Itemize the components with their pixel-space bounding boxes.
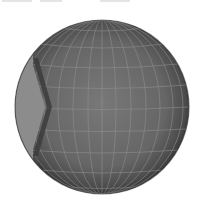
sphere-render [0,0,202,207]
